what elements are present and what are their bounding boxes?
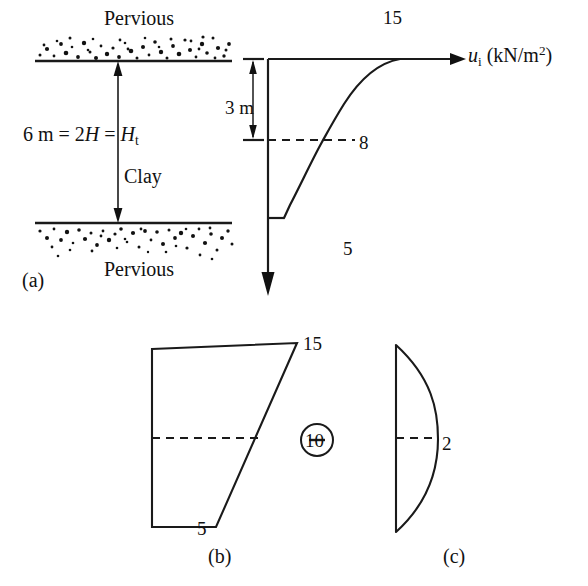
pressure-curve — [284, 59, 400, 218]
pressure-axis-label: ui (kN/m2) — [468, 44, 552, 68]
panel-b-top-value-label: 15 — [303, 334, 322, 353]
bottom-sand-stipple — [38, 227, 233, 261]
panel-c-caption: (c) — [443, 546, 465, 566]
panel-a-bottom-pressure-label: 5 — [343, 239, 353, 258]
panel-a-mid-pressure-label: 8 — [359, 133, 369, 152]
panel-a-soil-profile — [35, 35, 234, 260]
panel-c-mid-value-label: 2 — [442, 434, 452, 453]
panel-b-bottom-value-label: 5 — [197, 519, 207, 538]
bottom-pervious-label: Pervious — [104, 259, 174, 279]
consolidation-figure — [0, 0, 588, 586]
depth-axis-arrowhead — [262, 272, 275, 296]
panel-b-caption: (b) — [208, 546, 231, 566]
layer-thickness-label: 6 m = 2H = Ht — [23, 124, 139, 147]
panel-c-parabola — [396, 345, 438, 532]
panel-a-pressure-diagram — [243, 53, 466, 296]
panel-a-caption: (a) — [22, 270, 44, 290]
panel-a-top-pressure-label: 15 — [383, 8, 402, 27]
top-pervious-label: Pervious — [104, 8, 174, 28]
clay-label: Clay — [124, 166, 162, 186]
top-sand-stipple — [39, 35, 231, 60]
depth-dimension-label: 3 m — [225, 98, 254, 117]
pressure-axis-arrowhead — [450, 53, 466, 65]
panel-b-mid-value-label: 10 — [305, 431, 324, 450]
trapezoid-outline — [152, 343, 297, 527]
panel-b-trapezoid — [152, 343, 297, 527]
